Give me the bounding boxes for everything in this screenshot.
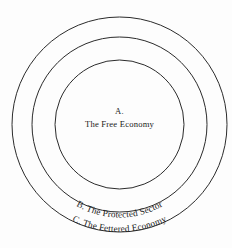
concentric-circles-diagram: A. The Free Economy B. The Protected Sec… (0, 0, 232, 248)
middle-label-curved: B. The Protected Sector (75, 199, 164, 220)
inner-label-marker: A. (115, 106, 124, 116)
middle-label-textpath: B. The Protected Sector (75, 199, 164, 220)
diagram-container: A. The Free Economy B. The Protected Sec… (0, 0, 232, 248)
inner-label-text: The Free Economy (85, 119, 155, 129)
